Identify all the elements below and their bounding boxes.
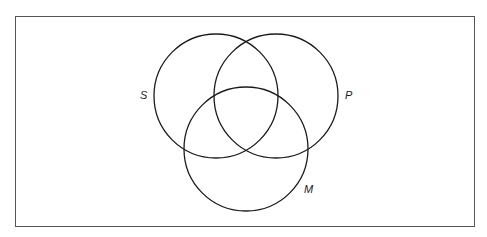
venn-diagram: SPM [0, 0, 487, 237]
label-p: P [345, 89, 353, 101]
circle-m [184, 87, 308, 211]
circle-p [214, 34, 338, 158]
label-m: M [304, 183, 314, 195]
circle-s [154, 34, 278, 158]
label-s: S [140, 89, 148, 101]
diagram-frame [16, 17, 475, 227]
